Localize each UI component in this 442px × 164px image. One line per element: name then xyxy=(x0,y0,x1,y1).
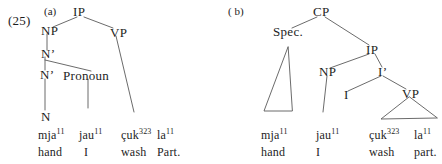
terminal-a-3: la11 xyxy=(157,129,174,141)
node-a-np: NP xyxy=(41,24,58,37)
branch-b-ibar-i xyxy=(348,76,381,91)
terminal-b-0-form: mja xyxy=(261,128,280,142)
node-b-i: I xyxy=(344,88,349,101)
terminal-b-0-tone: 11 xyxy=(280,127,288,136)
terminal-b-2-tone: 323 xyxy=(387,127,400,136)
example-number: (25) xyxy=(8,14,30,27)
terminal-a-3-tone: 11 xyxy=(166,127,174,136)
terminal-a-1: jau11 xyxy=(79,129,102,141)
node-b-ip: IP xyxy=(366,43,378,56)
node-a-n: N xyxy=(41,110,51,123)
terminal-a-0: mja11 xyxy=(38,129,65,141)
terminal-b-0: mja11 xyxy=(261,129,288,141)
gloss-a-1: I xyxy=(84,146,88,158)
node-b-cp: CP xyxy=(313,5,330,18)
terminal-b-3-tone: 11 xyxy=(423,127,431,136)
terminal-a-0-tone: 11 xyxy=(57,127,65,136)
terminal-a-2-form: çuk xyxy=(121,128,139,142)
terminal-b-3-form: la xyxy=(414,128,423,142)
gloss-a-2: wash xyxy=(121,146,146,158)
spec-triangle xyxy=(264,47,292,111)
gloss-b-0: hand xyxy=(261,146,285,158)
node-b-ibar: I’ xyxy=(378,65,387,78)
syntax-tree-figure: (25) (a) IP NP VP N’ N’ Pronoun N mja11 … xyxy=(0,0,442,164)
gloss-b-3: part. xyxy=(414,146,437,158)
gloss-b-1: I xyxy=(316,146,320,158)
node-b-spec: Spec. xyxy=(273,25,303,38)
terminal-b-2: çuk323 xyxy=(369,129,400,141)
branch-a-vp-terminal xyxy=(116,36,134,112)
node-b-vp: VP xyxy=(402,87,419,100)
terminal-b-1: jau11 xyxy=(316,129,339,141)
terminal-a-2-tone: 323 xyxy=(139,127,152,136)
node-a-vp: VP xyxy=(110,26,127,39)
gloss-a-3: Part. xyxy=(157,146,180,158)
terminal-b-3: la11 xyxy=(414,129,431,141)
terminal-b-1-tone: 11 xyxy=(331,127,339,136)
node-a-nbar-upper: N’ xyxy=(41,47,55,60)
terminal-a-1-form: jau xyxy=(79,128,94,142)
gloss-b-2: wash xyxy=(369,146,394,158)
node-a-ip: IP xyxy=(73,5,85,18)
terminal-b-2-form: çuk xyxy=(369,128,387,142)
branch-a-ip-vp xyxy=(84,17,113,28)
terminal-a-1-tone: 11 xyxy=(94,127,102,136)
gloss-a-0: hand xyxy=(38,146,62,158)
node-a-nbar-lower: N’ xyxy=(40,68,54,81)
node-b-np: NP xyxy=(319,65,336,78)
terminal-b-1-form: jau xyxy=(316,128,331,142)
terminal-a-2: çuk323 xyxy=(121,129,152,141)
branch-b-cp-ip xyxy=(325,17,369,45)
tree-b-label: ( b) xyxy=(228,6,244,17)
node-a-pronoun: Pronoun xyxy=(63,69,109,82)
terminal-a-3-form: la xyxy=(157,128,166,142)
branch-b-np-terminal xyxy=(323,76,327,112)
tree-a-label: (a) xyxy=(44,6,56,17)
terminal-a-0-form: mja xyxy=(38,128,57,142)
